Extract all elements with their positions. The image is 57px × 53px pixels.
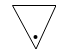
triangle-down-dot-icon xyxy=(0,0,56,53)
triangle-outline xyxy=(13,6,57,50)
center-dot xyxy=(34,35,38,39)
icon-canvas xyxy=(0,0,56,53)
